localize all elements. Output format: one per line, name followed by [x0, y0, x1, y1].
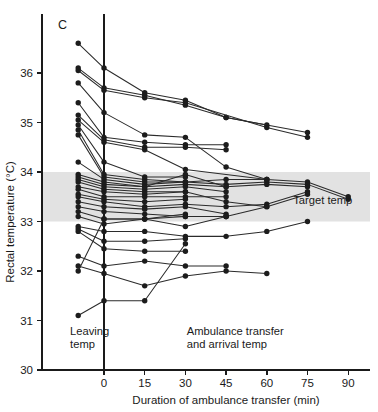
panel-label: C: [58, 18, 67, 32]
series-data-point: [76, 159, 81, 164]
series-data-point: [183, 273, 188, 278]
series-data-point: [264, 204, 269, 209]
series-data-point: [305, 184, 310, 189]
series-data-point: [76, 253, 81, 258]
x-axis-tick-label: 90: [342, 377, 355, 389]
series-data-point: [305, 219, 310, 224]
y-axis-tick-label: 30: [20, 364, 33, 376]
leaving-temp-annotation-line: Leaving: [70, 325, 109, 337]
x-axis-title: Duration of ambulance transfer (min): [132, 394, 319, 406]
y-axis-title: Rectal temperature (°C): [4, 161, 16, 283]
series-data-point: [76, 214, 81, 219]
series-data-point: [76, 132, 81, 137]
series-data-point: [183, 172, 188, 177]
series-data-point: [142, 194, 147, 199]
series-data-point: [101, 263, 106, 268]
series-data-point: [183, 214, 188, 219]
series-data-point: [223, 142, 228, 147]
series-data-point: [142, 95, 147, 100]
series-data-point: [76, 194, 81, 199]
series-data-point: [183, 204, 188, 209]
y-axis-tick-label: 34: [20, 166, 33, 178]
series-data-point: [101, 159, 106, 164]
series-data-point: [76, 122, 81, 127]
patient-series: [76, 219, 311, 239]
series-data-point: [264, 125, 269, 130]
series-data-point: [183, 197, 188, 202]
series-data-point: [183, 100, 188, 105]
series-line: [78, 217, 226, 271]
series-data-point: [76, 179, 81, 184]
transfer-annotation-line: and arrival temp: [187, 338, 267, 350]
patient-series: [76, 100, 229, 147]
series-data-point: [142, 258, 147, 263]
series-data-point: [264, 271, 269, 276]
series-data-point: [76, 229, 81, 234]
series-data-point: [76, 313, 81, 318]
series-data-point: [76, 209, 81, 214]
series-line: [78, 68, 307, 132]
series-data-point: [223, 268, 228, 273]
series-data-point: [76, 204, 81, 209]
series-data-point: [264, 229, 269, 234]
y-axis-tick-label: 31: [20, 315, 33, 327]
series-data-point: [76, 127, 81, 132]
series-data-point: [183, 167, 188, 172]
series-data-point: [183, 224, 188, 229]
series-data-point: [223, 204, 228, 209]
series-data-point: [76, 41, 81, 46]
series-data-point: [101, 216, 106, 221]
x-axis-tick-label: 45: [220, 377, 233, 389]
target-temp-annotation: Target temp: [293, 194, 352, 206]
series-data-point: [76, 117, 81, 122]
x-axis-tick-label: 60: [260, 377, 273, 389]
series-data-point: [142, 298, 147, 303]
series-data-point: [142, 249, 147, 254]
x-axis-tick-label: 30: [179, 377, 192, 389]
series-line: [78, 222, 307, 237]
series-data-point: [76, 112, 81, 117]
series-data-point: [101, 271, 106, 276]
leaving-temp-annotation-line: temp: [70, 338, 95, 350]
series-data-point: [142, 229, 147, 234]
series-data-point: [76, 100, 81, 105]
series-data-point: [142, 283, 147, 288]
series-data-point: [101, 246, 106, 251]
y-axis-tick-label: 32: [20, 265, 33, 277]
patient-series: [76, 253, 229, 268]
series-data-point: [264, 182, 269, 187]
series-data-point: [223, 184, 228, 189]
series-data-point: [142, 211, 147, 216]
series-data-point: [76, 268, 81, 273]
patient-series: [76, 112, 229, 152]
series-data-point: [183, 241, 188, 246]
chart-figure: 303132333435360153045607590 LeavingtempA…: [0, 0, 378, 412]
series-line: [78, 125, 185, 177]
x-axis-tick-label: 15: [138, 377, 151, 389]
x-axis-tick-label: 0: [101, 377, 107, 389]
series-data-point: [305, 130, 310, 135]
series-data-point: [183, 135, 188, 140]
series-data-point: [223, 189, 228, 194]
series-line: [78, 256, 226, 266]
patient-series: [76, 65, 311, 135]
series-data-point: [223, 164, 228, 169]
series-data-point: [142, 147, 147, 152]
series-data-point: [223, 199, 228, 204]
series-data-point: [223, 194, 228, 199]
y-axis-tick-label: 35: [20, 117, 33, 129]
transfer-annotation-line: Ambulance transfer: [187, 325, 284, 337]
transfer-annotation: Ambulance transferand arrival temp: [187, 325, 284, 350]
series-line: [78, 266, 267, 286]
series-data-point: [142, 199, 147, 204]
series-data-point: [101, 65, 106, 70]
target-temp-annotation-line: Target temp: [293, 194, 352, 206]
x-axis-tick-label: 75: [301, 377, 314, 389]
series-data-point: [76, 199, 81, 204]
series-data-point: [142, 140, 147, 145]
series-data-point: [101, 209, 106, 214]
series-data-point: [142, 132, 147, 137]
series-data-point: [223, 147, 228, 152]
series-data-point: [101, 239, 106, 244]
series-data-point: [183, 249, 188, 254]
